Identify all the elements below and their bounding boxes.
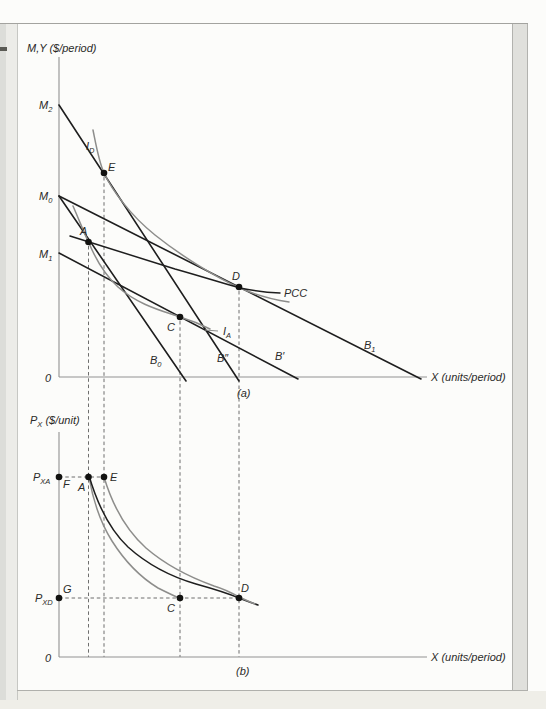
panel-b-ordinary-demand-A-D [89,474,259,605]
panel-a-price-consumption-curve [70,236,280,293]
panel-b-point-E [101,474,108,481]
panel-a-budget-line-B0 [59,196,186,381]
panel-b-point-C-label-text: C [167,602,175,614]
label-IA: IA [223,325,231,340]
panel-b-origin-label-text: 0 [45,652,52,664]
panel-b-y-axis-label-text: ($/unit) [42,414,80,426]
panel-b-point-E-label: E [110,471,118,483]
panel-a-point-E-label-text: E [108,161,116,173]
panel-b-point-D-label-text: D [241,582,249,594]
panel-a-y-axis-label-text: M,Y ($/period) [27,42,97,54]
panel-b-point-G-label: G [63,583,72,595]
panel-a-y-axis-label: M,Y ($/period) [27,42,97,54]
figure-svg: AECDM,Y ($/period)X (units/period)0(a)M2… [0,0,546,709]
label-B1-text: B [364,339,371,351]
label-B-doubleprime-text: B″ [217,352,229,364]
label-B1-text: 1 [371,345,375,354]
panel-b-point-D-label: D [241,582,249,594]
panel-b-compensated-demand-A-C [89,477,179,598]
panel-b-point-C-label: C [167,602,175,614]
label-M1: M1 [39,248,52,263]
label-B-doubleprime: B″ [217,352,229,364]
panel-b-point-F [56,474,63,481]
panel-a-caption-text: (a) [237,387,251,399]
panel-a-x-axis-label: X (units/period) [430,371,506,383]
panel-a-caption: (a) [237,387,251,399]
book-page: AECDM,Y ($/period)X (units/period)0(a)M2… [0,0,546,709]
panel-a-origin-label-text: 0 [45,372,52,384]
panel-b-x-axis-label: X (units/period) [430,651,506,663]
panel-a-point-C-label: C [167,321,175,333]
panel-a-point-A-label: A [79,225,87,237]
label-M2-text: 2 [47,105,53,114]
panel-b-point-E-label-text: E [110,471,118,483]
label-B0: B0 [150,354,162,369]
panel-b-point-A [85,474,92,481]
panel-a-point-A [85,239,92,246]
label-PXA: PXA [33,471,50,486]
label-IA-text: A [225,331,231,340]
panel-a-point-C [177,314,184,321]
label-PXA-text: XA [39,477,50,486]
panel-b-point-F-label-text: F [63,478,71,490]
label-ID-text: D [89,146,95,155]
panel-b-caption: (b) [236,665,250,677]
label-PCC-text: PCC [284,287,307,299]
panel-a-point-E [101,170,108,177]
label-B-prime-text: B′ [275,350,285,362]
panel-b-point-G [56,595,63,602]
panel-a-origin-label: 0 [45,372,52,384]
label-M2: M2 [39,99,53,114]
panel-b-caption-text: (b) [236,665,250,677]
panel-b-y-axis-label: PX ($/unit) [30,414,80,429]
panel-a-point-D-label: D [232,270,240,282]
panel-b-point-F-label: F [63,478,71,490]
panel-b-compensated-demand-E-D [104,477,255,604]
label-PXD-text: XD [41,598,53,607]
label-M1-text: 1 [48,254,52,263]
panel-b-point-G-label-text: G [63,583,72,595]
label-M0: M0 [39,190,53,205]
panel-b-origin-label: 0 [45,652,52,664]
panel-a-point-D [236,284,243,291]
panel-a-point-A-label-text: A [79,225,87,237]
panel-b-point-D [236,595,243,602]
label-B0-text: B [150,354,157,366]
panel-b-point-A-label-text: A [77,481,85,493]
panel-a-indifference-curve-IA [73,206,210,329]
label-B0-text: 0 [157,360,162,369]
label-B-prime: B′ [275,350,285,362]
label-PCC: PCC [284,287,307,299]
panel-a-point-D-label-text: D [232,270,240,282]
label-ID: ID [86,140,95,155]
label-PXD: PXD [35,592,53,607]
panel-a-point-C-label-text: C [167,321,175,333]
panel-b-point-A-label: A [77,481,85,493]
panel-a-indifference-curve-ID [93,130,289,302]
panel-b-point-C [177,595,184,602]
panel-b-x-axis-label-text: X (units/period) [430,651,506,663]
panel-a-x-axis-label-text: X (units/period) [430,371,506,383]
label-M0-text: 0 [48,196,53,205]
panel-a-point-E-label: E [108,161,116,173]
